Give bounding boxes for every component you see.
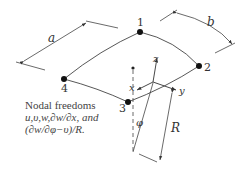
shell-element-diagram: 1 2 3 4 a b R φ z x y bbox=[0, 0, 249, 184]
label-b: b bbox=[207, 15, 215, 29]
label-a: a bbox=[48, 31, 55, 45]
node-1 bbox=[137, 29, 143, 35]
dimension-a bbox=[16, 21, 118, 70]
label-phi: φ bbox=[136, 117, 143, 128]
center-dot bbox=[131, 66, 134, 69]
edge-4-1 bbox=[64, 32, 140, 79]
axis-label-y: y bbox=[178, 85, 185, 96]
caption-line-2: u,υ,w,∂w/∂x, and bbox=[25, 111, 125, 123]
label-R: R bbox=[170, 121, 180, 135]
edge-2-3 bbox=[128, 66, 199, 102]
edge-1-2 bbox=[140, 32, 199, 66]
R-base-tick bbox=[139, 154, 157, 162]
node-label-1: 1 bbox=[137, 16, 144, 29]
caption-line-1: Nodal freedoms bbox=[25, 99, 125, 111]
node-label-2: 2 bbox=[204, 61, 211, 74]
axis-label-z: z bbox=[152, 53, 159, 64]
node-label-4: 4 bbox=[61, 82, 68, 95]
node-2 bbox=[196, 63, 202, 69]
axis-label-x: x bbox=[129, 82, 135, 93]
nodal-freedoms-caption: Nodal freedoms u,υ,w,∂w/∂x, and (∂w/∂φ−υ… bbox=[25, 99, 125, 135]
dimension-b bbox=[160, 10, 235, 53]
caption-line-3: (∂w/∂φ−υ)/R. bbox=[25, 123, 125, 135]
